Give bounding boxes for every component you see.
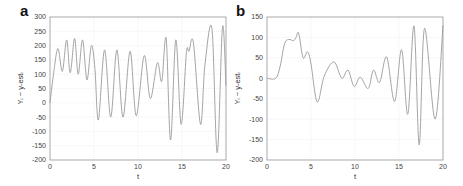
chart-panel-a: a 05101520-200-150-100-50050100150200250…	[0, 0, 231, 186]
x-tick-label: 15	[395, 163, 403, 170]
y-tick-label: 100	[34, 71, 46, 78]
y-tick-label: 150	[251, 13, 263, 20]
y-tick-label: 50	[38, 85, 46, 92]
x-tick-label: 5	[92, 163, 96, 170]
x-tick-label: 10	[134, 163, 142, 170]
y-tick-label: -200	[249, 156, 263, 163]
y-tick-label: -50	[36, 114, 46, 121]
y-tick-label: 100	[251, 34, 263, 41]
y-tick-label: 250	[34, 28, 46, 35]
chart-panel-b: b 05101520-200-150-100-50050100150tYᵢ − …	[231, 0, 462, 186]
x-tick-label: 20	[439, 163, 447, 170]
y-tick-label: -150	[249, 136, 263, 143]
y-tick-label: -100	[249, 116, 263, 123]
x-axis-label: t	[137, 172, 140, 181]
x-tick-label: 20	[222, 163, 230, 170]
line-chart-b: 05101520-200-150-100-50050100150tYᵢ − y-…	[231, 0, 463, 186]
y-tick-label: 150	[34, 56, 46, 63]
x-tick-label: 15	[178, 163, 186, 170]
x-tick-label: 0	[48, 163, 52, 170]
line-chart-a: 05101520-200-150-100-5005010015020025030…	[0, 0, 231, 186]
y-tick-label: -150	[32, 142, 46, 149]
x-tick-label: 0	[265, 163, 269, 170]
y-tick-label: 300	[34, 13, 46, 20]
y-tick-label: 200	[34, 42, 46, 49]
x-tick-label: 10	[351, 163, 359, 170]
y-tick-label: -200	[32, 156, 46, 163]
y-tick-label: -50	[253, 95, 263, 102]
y-tick-label: 0	[42, 99, 46, 106]
x-axis-label: t	[354, 172, 357, 181]
y-tick-label: 0	[259, 75, 263, 82]
y-tick-label: 50	[255, 54, 263, 61]
y-axis-label: Yᵢ − y-estᵢ	[233, 72, 242, 104]
x-tick-label: 5	[309, 163, 313, 170]
y-tick-label: -100	[32, 128, 46, 135]
y-axis-label: Yᵢ − y-estᵢ	[16, 72, 25, 104]
